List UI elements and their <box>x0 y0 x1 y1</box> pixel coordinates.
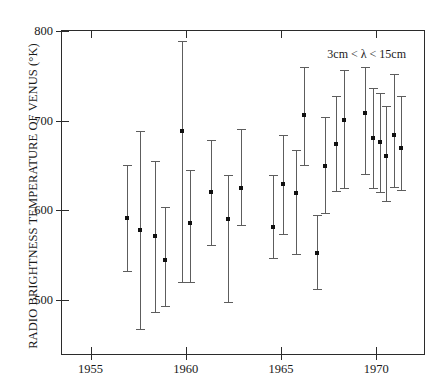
error-bar-cap-upper <box>237 129 246 130</box>
error-bar-cap-lower <box>369 188 378 189</box>
error-bar-cap-upper <box>207 140 216 141</box>
data-marker <box>125 216 129 220</box>
data-marker <box>334 142 338 146</box>
error-bar-cap-upper <box>321 117 330 118</box>
y-axis-label: RADIO BRIGHTNESS TEMPERATURE OF VENUS (°… <box>22 0 44 392</box>
error-bar-cap-upper <box>382 106 391 107</box>
data-marker <box>281 182 285 186</box>
error-bar-cap-upper <box>390 74 399 75</box>
data-marker <box>188 221 192 225</box>
error-bar-cap-upper <box>224 175 233 176</box>
data-marker <box>226 217 230 221</box>
error-bar-cap-lower <box>332 191 341 192</box>
error-bar-cap-upper <box>161 207 170 208</box>
error-bar-cap-lower <box>279 234 288 235</box>
error-bar-cap-lower <box>376 192 385 193</box>
error-bar-line <box>241 129 242 225</box>
y-tick-label: 600 <box>34 203 53 218</box>
x-tick-inner <box>91 347 92 354</box>
error-bar-cap-lower <box>161 306 170 307</box>
y-tick-label: 800 <box>34 24 53 39</box>
x-tick-top-inner <box>186 31 187 38</box>
error-bar-cap-lower <box>269 258 278 259</box>
error-bar-cap-upper <box>269 175 278 176</box>
error-bar-cap-upper <box>313 215 322 216</box>
y-tick-label: 500 <box>34 293 53 308</box>
x-tick-mark <box>91 354 92 360</box>
wavelength-range-annotation: 3cm < λ < 15cm <box>327 47 406 62</box>
data-marker <box>392 133 396 137</box>
data-marker <box>371 136 375 140</box>
error-bar-line <box>273 175 274 258</box>
x-tick-inner <box>186 347 187 354</box>
error-bar-cap-lower <box>292 254 301 255</box>
x-tick-inner <box>281 347 282 354</box>
data-marker <box>323 164 327 168</box>
error-bar-cap-upper <box>151 161 160 162</box>
data-marker <box>271 225 275 229</box>
error-bar-cap-upper <box>123 165 132 166</box>
data-marker <box>384 154 388 158</box>
data-marker <box>163 258 167 262</box>
error-bar-cap-lower <box>186 282 195 283</box>
data-marker <box>399 146 403 150</box>
y-tick-inner <box>62 210 69 211</box>
error-bar-cap-lower <box>151 312 160 313</box>
error-bar-cap-lower <box>397 190 406 191</box>
error-bar-cap-lower <box>224 302 233 303</box>
error-bar-cap-lower <box>361 174 370 175</box>
error-bar-cap-upper <box>361 67 370 68</box>
error-bar-line <box>401 96 402 190</box>
data-marker <box>239 186 243 190</box>
error-bar-line <box>344 70 345 188</box>
error-bar-line <box>365 67 366 174</box>
error-bar-cap-upper <box>397 96 406 97</box>
data-marker <box>302 113 306 117</box>
data-marker <box>153 234 157 238</box>
venus-brightness-temperature-figure: RADIO BRIGHTNESS TEMPERATURE OF VENUS (°… <box>0 0 444 392</box>
data-marker <box>209 190 213 194</box>
error-bar-line <box>394 74 395 187</box>
x-tick-label: 1960 <box>173 362 198 377</box>
data-marker <box>138 228 142 232</box>
data-marker <box>342 118 346 122</box>
error-bar-cap-upper <box>178 41 187 42</box>
error-bar-cap-lower <box>390 187 399 188</box>
error-bar-cap-lower <box>123 271 132 272</box>
x-tick-top-inner <box>281 31 282 38</box>
error-bar-cap-lower <box>340 188 349 189</box>
y-tick-inner <box>62 31 69 32</box>
x-tick-mark <box>186 354 187 360</box>
error-bar-cap-lower <box>382 201 391 202</box>
x-tick-label: 1965 <box>269 362 294 377</box>
error-bar-cap-upper <box>136 131 145 132</box>
x-tick-label: 1970 <box>364 362 389 377</box>
y-tick-label: 700 <box>34 113 53 128</box>
data-marker <box>315 251 319 255</box>
error-bar-cap-upper <box>186 170 195 171</box>
x-tick-mark <box>376 354 377 360</box>
error-bar-cap-lower <box>136 329 145 330</box>
error-bar-line <box>228 175 229 302</box>
y-tick-inner <box>62 300 69 301</box>
error-bar-cap-upper <box>332 96 341 97</box>
data-marker <box>180 129 184 133</box>
plot-area: 3cm < λ < 15cm 5006007008001955196019651… <box>61 30 425 355</box>
error-bar-cap-lower <box>313 289 322 290</box>
x-tick-top-inner <box>91 31 92 38</box>
x-tick-label: 1955 <box>78 362 103 377</box>
x-tick-top-inner <box>376 31 377 38</box>
y-tick-inner <box>62 121 69 122</box>
x-tick-inner <box>376 347 377 354</box>
error-bar-cap-upper <box>279 135 288 136</box>
error-bar-cap-lower <box>237 225 246 226</box>
data-marker <box>363 111 367 115</box>
error-bar-cap-upper <box>300 67 309 68</box>
error-bar-line <box>296 150 297 253</box>
error-bar-cap-lower <box>321 213 330 214</box>
data-marker <box>378 140 382 144</box>
error-bar-cap-upper <box>292 150 301 151</box>
data-marker <box>294 191 298 195</box>
error-bar-cap-lower <box>207 245 216 246</box>
error-bar-cap-lower <box>300 165 309 166</box>
